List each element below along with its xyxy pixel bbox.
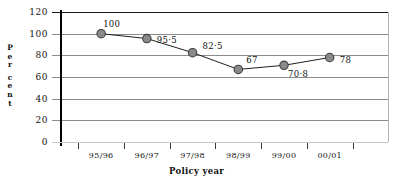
data-point-marker[interactable] [188,48,196,56]
data-point-marker[interactable] [143,34,151,42]
data-point-marker[interactable] [326,53,334,61]
data-point-marker[interactable] [280,61,288,69]
data-point-label: 95·5 [157,35,177,45]
series-line [101,34,330,70]
data-point-marker[interactable] [234,65,242,73]
data-point-label: 70·8 [288,69,308,79]
data-point-label: 82·5 [203,41,223,51]
data-point-marker[interactable] [97,29,105,37]
series-layer [0,0,393,182]
data-point-label: 100 [103,19,120,29]
data-point-label: 67 [246,55,257,65]
data-point-label: 78 [340,55,351,65]
line-chart: P e r c e n t 120100806040200 95/9696/97… [0,0,393,182]
